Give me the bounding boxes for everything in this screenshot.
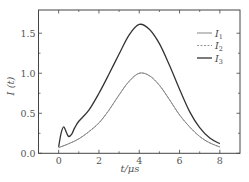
x-tick-label: 0: [56, 155, 62, 166]
x-tick-label: 6: [177, 155, 183, 166]
legend-label-i3: I3: [214, 53, 223, 66]
plot-frame: [39, 10, 241, 153]
x-tick-label: 2: [96, 155, 102, 166]
y-tick-label: 1.0: [20, 68, 35, 79]
y-tick-label: 0.5: [20, 108, 35, 119]
series-layer: [59, 24, 220, 147]
y-tick-label: 1.5: [20, 28, 35, 39]
y-tick-label: 0.0: [20, 148, 35, 159]
legend: I1I2I3: [197, 28, 223, 66]
y-axis-label: I (t): [5, 76, 16, 96]
x-axis-label: t/μs: [120, 163, 139, 174]
legend-label-i1: I1: [214, 28, 223, 41]
x-tick-label: 8: [217, 155, 223, 166]
plot-border: [39, 10, 241, 153]
series-i1-line: [59, 73, 220, 148]
series-i3-line: [59, 24, 220, 147]
legend-label-i2: I2: [214, 40, 223, 53]
line-chart: 024680.00.51.01.5 I1I2I3 t/μs I (t): [0, 0, 249, 182]
